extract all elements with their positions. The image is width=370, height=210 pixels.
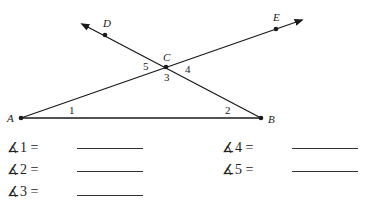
point-c bbox=[164, 65, 169, 70]
angle-5-label: ∡5 = bbox=[222, 161, 253, 178]
answer-blank-3[interactable] bbox=[77, 195, 143, 196]
angle-2-label: ∡2 = bbox=[7, 161, 38, 178]
geometry-figure: A B C D E 1 2 3 4 5 bbox=[0, 0, 370, 130]
point-d bbox=[103, 33, 108, 38]
point-label-e: E bbox=[272, 11, 280, 23]
point-label-a: A bbox=[6, 112, 14, 124]
answer-blank-2[interactable] bbox=[77, 171, 143, 172]
angle-3-label: ∡3 = bbox=[7, 183, 38, 200]
angle-label-2: 2 bbox=[225, 104, 231, 116]
answer-blank-4[interactable] bbox=[292, 148, 358, 149]
line-ace bbox=[21, 20, 302, 118]
angle-label-4: 4 bbox=[185, 63, 191, 75]
point-e bbox=[274, 27, 279, 32]
angle-label-1: 1 bbox=[69, 104, 75, 116]
line-bcd bbox=[82, 24, 261, 118]
point-b bbox=[259, 116, 264, 121]
answer-row-5: ∡5 = bbox=[222, 161, 253, 177]
angle-4-label: ∡4 = bbox=[222, 139, 253, 156]
point-label-c: C bbox=[163, 51, 171, 63]
angle-label-5: 5 bbox=[143, 60, 149, 72]
angle-1-label: ∡1 = bbox=[7, 139, 38, 156]
answer-row-1: ∡1 = bbox=[7, 139, 38, 155]
point-a bbox=[19, 116, 24, 121]
answer-row-4: ∡4 = bbox=[222, 139, 253, 155]
angle-label-3: 3 bbox=[164, 71, 170, 83]
answer-blank-1[interactable] bbox=[77, 148, 143, 149]
answer-row-2: ∡2 = bbox=[7, 161, 38, 177]
point-label-b: B bbox=[268, 113, 275, 125]
answer-row-3: ∡3 = bbox=[7, 183, 38, 199]
answer-blank-5[interactable] bbox=[292, 171, 358, 172]
point-label-d: D bbox=[102, 17, 111, 29]
